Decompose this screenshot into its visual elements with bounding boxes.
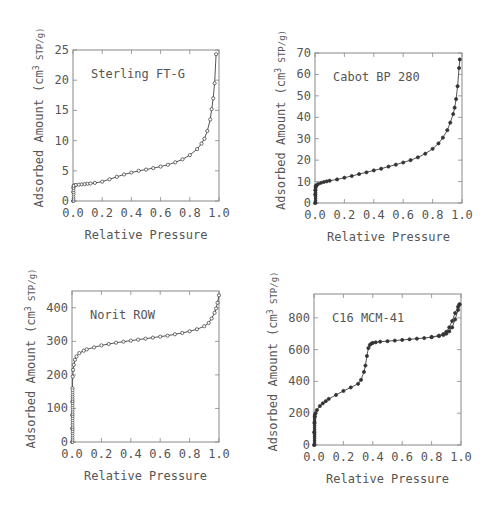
data-point [93,181,96,184]
data-point [174,161,177,164]
chart-title: Sterling FT-G [91,67,185,81]
data-point [416,156,419,159]
y-tick-label: 5 [62,164,69,178]
data-point [210,108,213,111]
y-tick-label: 100 [46,401,68,415]
data-point [445,330,448,333]
data-point [327,397,330,400]
data-point [448,326,451,329]
x-tick-label: 0.0 [303,450,325,464]
data-point [195,328,198,331]
x-tick-label: 0.2 [334,208,356,222]
y-tick-label: 0 [303,438,310,452]
data-point [72,368,75,371]
data-point [73,358,76,361]
x-tick-label: 0.8 [179,447,201,461]
data-point [374,341,377,344]
data-point [415,337,418,340]
data-point [216,301,219,304]
data-point [342,389,345,392]
data-point [217,294,220,297]
data-point [214,53,217,56]
data-point [151,336,154,339]
x-tick-label: 0.6 [150,206,172,220]
data-point [144,168,147,171]
data-point [431,147,434,150]
data-point [89,182,92,185]
y-tick-label: 0 [304,196,311,210]
y-tick-label: 10 [297,175,311,189]
y-tick-label: 800 [288,311,310,325]
data-point [350,174,353,177]
data-point [335,178,338,181]
y-tick-label: 30 [297,132,311,146]
data-point [379,340,382,343]
data-point [188,330,191,333]
x-axis-label: Relative Pressure [327,230,450,244]
y-tick-label: 400 [288,374,310,388]
data-point [321,402,324,405]
x-tick-label: 0.0 [304,208,326,222]
x-tick-label: 0.0 [62,206,84,220]
data-point [334,393,337,396]
data-point [452,112,455,115]
data-point [159,165,162,168]
data-point [328,179,331,182]
data-point [456,305,459,308]
y-axis-label: Adsorbed Amount (cm3 STP/g) [274,30,289,210]
y-tick-label: 50 [297,89,311,103]
data-point [72,363,75,366]
y-tick-label: 60 [297,67,311,81]
y-tick-label: 0 [62,194,69,208]
data-point [71,389,74,392]
data-point [107,342,110,345]
x-tick-label: 1.0 [208,447,230,461]
data-point [166,163,169,166]
data-point [92,346,95,349]
data-point [386,340,389,343]
data-point [437,334,440,337]
data-point [196,147,199,150]
y-tick-label: 70 [297,46,311,60]
data-point [123,173,126,176]
data-point [458,58,461,61]
data-point [122,340,125,343]
data-point [451,319,454,322]
data-point [115,175,118,178]
data-point [453,106,456,109]
data-point [359,378,362,381]
y-tick-label: 20 [55,73,69,87]
data-point [456,85,459,88]
data-point [101,180,104,183]
y-axis-label: Adsorbed Amount (cm3 STP/g) [266,271,281,451]
data-point [441,136,444,139]
isotherm-figure: 0.00.20.40.60.81.00510152025Relative Pre… [0,0,489,510]
data-point [393,339,396,342]
data-point [449,121,452,124]
x-tick-label: 0.4 [120,447,142,461]
data-point [188,153,191,156]
data-point [324,400,327,403]
data-point [71,375,74,378]
data-point [137,169,140,172]
data-point [210,317,213,320]
data-point [409,159,412,162]
figure-canvas: 0.00.20.40.60.81.00510152025Relative Pre… [0,0,489,510]
y-tick-label: 20 [297,153,311,167]
x-axis-label: Relative Pressure [84,469,207,483]
data-point [357,382,360,385]
data-point [130,171,133,174]
x-tick-label: 1.0 [450,450,472,464]
data-point [423,336,426,339]
data-point [314,184,317,187]
data-point [181,158,184,161]
x-tick-label: 0.6 [149,447,171,461]
chart-panel-3: 0.00.20.40.60.81.00200400600800Relative … [266,271,472,486]
y-tick-label: 600 [288,343,310,357]
data-point [108,178,111,181]
x-tick-label: 0.6 [392,208,414,222]
data-point [430,335,433,338]
y-axis-label: Adsorbed Amount (cm3 STP/g) [24,268,39,448]
x-tick-label: 0.6 [391,450,413,464]
data-point [200,142,203,145]
